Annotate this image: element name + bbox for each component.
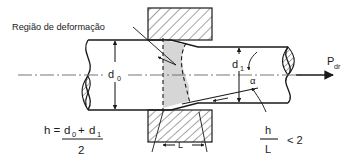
ratio-comparison: < 2 (287, 134, 303, 146)
force-subscript: dr (334, 62, 341, 71)
equation-num-d1: d (89, 124, 95, 136)
region-label: Região de deformação (12, 22, 105, 32)
workpiece-top-edge (88, 40, 288, 47)
equation-num-d0: d (64, 124, 70, 136)
dimension-d0-label: d (108, 68, 114, 80)
break-right-section-fill (283, 47, 294, 75)
equation-num-d1-sub: 1 (97, 130, 101, 139)
die-lower-block (148, 110, 212, 142)
figure-container: d 0 d 1 α P dr Re (0, 0, 354, 167)
workpiece-bottom-edge (88, 103, 288, 110)
angle-alpha-leader-taper (182, 88, 258, 104)
angle-alpha-taper-arrow (213, 98, 228, 101)
die-upper-block (148, 8, 212, 40)
deformation-zone-fill (163, 40, 189, 108)
technical-diagram: d 0 d 1 α P dr Re (0, 0, 354, 167)
die-upper (148, 8, 212, 40)
ratio-denominator: L (265, 143, 271, 155)
ratio-numerator: h (265, 124, 271, 136)
equation-lhs: h = (44, 124, 61, 136)
equation-num-d0-sub: 0 (72, 130, 76, 139)
force-arrow-group: P dr (296, 55, 341, 75)
die-lower (148, 110, 212, 142)
equation-mean-thickness: h = d 0 + d 1 2 (44, 124, 103, 156)
break-left-section-fill (82, 76, 90, 110)
angle-alpha-label: α (250, 75, 256, 86)
dimension-d1-subscript: 1 (240, 64, 244, 73)
dimension-d1-label: d (232, 58, 238, 70)
equation-plus: + (78, 124, 85, 136)
dimension-L-label: L (178, 140, 183, 150)
dimension-d0: d 0 (106, 41, 128, 109)
equation-denominator: 2 (78, 144, 84, 156)
dimension-d0-subscript: 0 (117, 74, 121, 83)
equation-ratio: h L < 2 (260, 124, 303, 155)
angle-alpha-leader-lower (252, 88, 266, 112)
